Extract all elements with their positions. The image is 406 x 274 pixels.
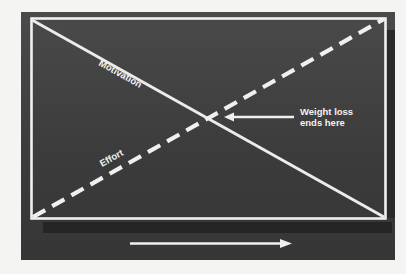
callout-arrow-icon (224, 113, 294, 122)
diagram-stage: Motivation Effort Weight loss ends here (0, 0, 406, 274)
time-arrow-icon (130, 239, 292, 248)
diagram-lines (0, 0, 406, 274)
callout-line-2: ends here (300, 117, 353, 128)
callout-text: Weight loss ends here (300, 106, 353, 128)
callout-line-1: Weight loss (300, 106, 353, 117)
